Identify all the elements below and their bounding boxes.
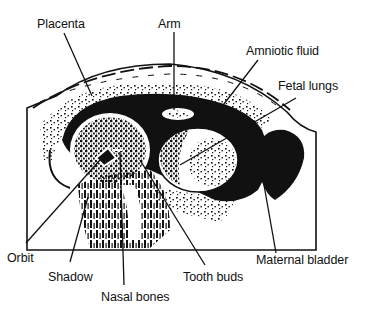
label-nasal-bones: Nasal bones xyxy=(101,290,169,304)
label-fetal-lungs: Fetal lungs xyxy=(278,79,338,93)
label-maternal-bladder: Maternal bladder xyxy=(256,253,348,267)
label-placenta: Placenta xyxy=(37,17,85,31)
fetal-chest xyxy=(158,128,238,192)
label-orbit: Orbit xyxy=(7,251,34,265)
shadow-region xyxy=(78,170,170,248)
label-tooth-buds: Tooth buds xyxy=(183,270,243,284)
label-amniotic-fluid: Amniotic fluid xyxy=(246,44,319,58)
label-shadow: Shadow xyxy=(48,270,93,284)
label-arm: Arm xyxy=(158,17,181,31)
